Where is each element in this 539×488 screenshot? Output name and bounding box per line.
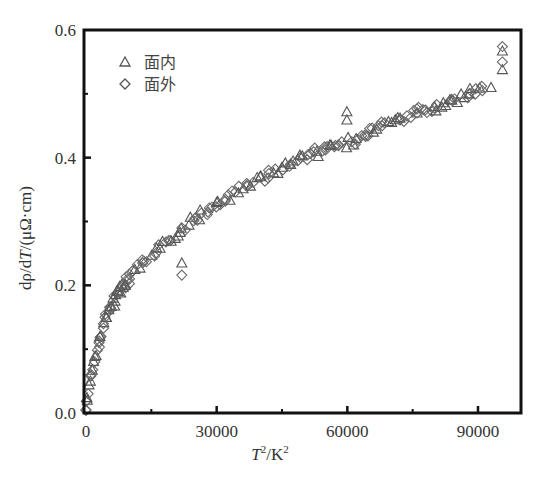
data-markers [81,42,507,416]
triangle-marker [177,258,187,267]
y-axis-title: dρ/dT/(μΩ·cm) [16,186,35,290]
y-tick-label: 0.4 [55,149,77,168]
y-tick-label: 0.2 [55,276,76,295]
x-tick-label: 30000 [195,422,238,441]
axis-ticks [84,94,478,413]
legend: 面内 面外 [120,53,176,94]
legend-diamond-icon [120,79,130,89]
x-tick-label: 90000 [457,422,500,441]
chart: 03000060000900000.00.20.40.6 面内 面外 T2/K2… [0,0,539,488]
x-tick-label: 60000 [326,422,369,441]
legend-label-inplane: 面内 [144,53,176,72]
tick-labels: 03000060000900000.00.20.40.6 [55,21,500,441]
y-tick-label: 0.0 [55,404,76,423]
triangle-marker [497,65,507,74]
legend-triangle-icon [120,57,130,66]
diamond-marker [177,270,187,280]
x-tick-label: 0 [82,422,91,441]
x-axis-title: T2/K2 [251,443,288,464]
triangle-marker [342,115,352,124]
legend-label-outplane: 面外 [144,75,176,94]
y-tick-label: 0.6 [55,21,76,40]
